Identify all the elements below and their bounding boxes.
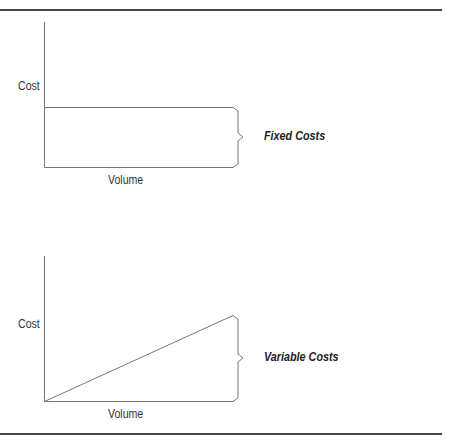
variable-cost-diagram	[45, 256, 244, 402]
variable-x-axis-label: Volume	[108, 407, 143, 421]
cost-diagrams	[0, 0, 451, 444]
fixed-costs-label: Fixed Costs	[264, 129, 325, 143]
fixed-cost-diagram	[45, 22, 244, 168]
fixed-x-axis-label: Volume	[108, 173, 143, 187]
fixed-brace-icon	[233, 108, 243, 168]
fixed-y-axis-label: Cost	[18, 79, 40, 93]
variable-y-axis-label: Cost	[18, 317, 40, 331]
variable-cost-line	[45, 316, 234, 402]
bottom-rule	[0, 433, 442, 435]
variable-brace-icon	[233, 316, 243, 402]
variable-costs-label: Variable Costs	[264, 350, 339, 364]
